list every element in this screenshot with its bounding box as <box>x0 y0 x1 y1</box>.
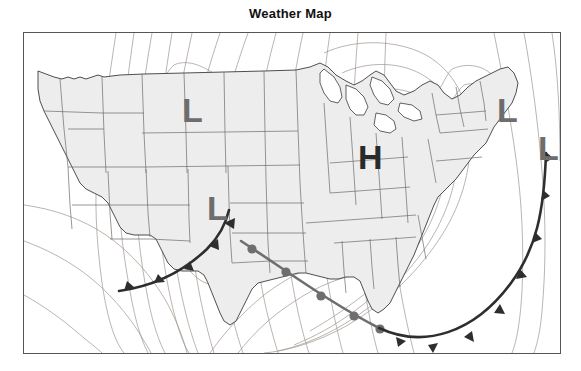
page-title: Weather Map <box>0 6 581 21</box>
map-canvas[interactable] <box>24 33 560 353</box>
high-pressure-label-midwest[interactable]: H <box>358 140 383 174</box>
us-landmass <box>38 63 518 325</box>
low-pressure-label-southwest[interactable]: L <box>207 191 228 225</box>
low-pressure-label-montana[interactable]: L <box>182 93 203 127</box>
low-pressure-label-atlantic[interactable]: L <box>538 131 559 165</box>
low-pressure-label-newengland[interactable]: L <box>497 93 518 127</box>
map-frame[interactable]: L L H L L <box>23 32 561 354</box>
weather-map-page: Weather Map <box>0 0 581 371</box>
